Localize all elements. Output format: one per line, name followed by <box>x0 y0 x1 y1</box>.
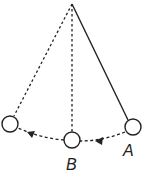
arrow-icon <box>27 131 35 138</box>
bob-left <box>2 116 18 132</box>
bob-B <box>64 132 80 148</box>
label-A: A <box>122 142 134 159</box>
bob-A <box>125 119 141 135</box>
swing-path-B-to-left <box>18 128 64 140</box>
label-B: B <box>66 156 77 173</box>
string-position-A <box>72 4 128 120</box>
string-position-left <box>14 4 72 116</box>
pendulum-diagram: B A <box>0 0 146 176</box>
arrow-icon <box>95 137 103 145</box>
